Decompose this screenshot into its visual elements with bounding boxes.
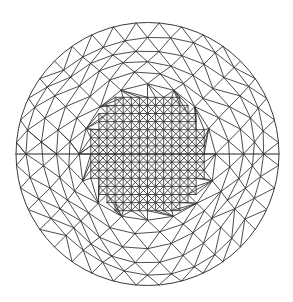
radial-edge: [41, 130, 58, 142]
radial-edge: [30, 166, 43, 178]
radial-edge: [91, 237, 100, 244]
radial-edge: [148, 262, 160, 275]
radial-edge: [159, 23, 171, 38]
radial-edge: [203, 89, 213, 99]
radial-edge: [182, 43, 194, 56]
radial-edge: [35, 107, 45, 118]
radial-edge: [148, 52, 160, 62]
radial-edge: [182, 56, 193, 76]
radial-edge: [183, 255, 194, 266]
radial-edge: [125, 41, 136, 51]
radial-edge: [159, 38, 171, 52]
radial-edge: [103, 47, 113, 55]
ring-edge: [83, 250, 102, 262]
radial-edge: [239, 178, 246, 188]
radial-edge: [240, 118, 250, 129]
radial-edge: [41, 142, 56, 154]
radial-edge: [148, 37, 160, 51]
radial-edge: [250, 108, 258, 118]
ring-edge: [123, 62, 147, 63]
radial-edge: [28, 98, 34, 107]
radial-edge: [123, 234, 135, 247]
radial-edge: [69, 154, 79, 166]
radial-edge: [171, 274, 181, 281]
radial-edge: [71, 57, 83, 77]
ring-edge: [74, 228, 91, 244]
radial-edge: [51, 209, 60, 219]
ring-edge: [263, 131, 264, 154]
ring-edge: [215, 238, 232, 254]
ring-edge: [204, 64, 224, 77]
radial-edge: [194, 35, 203, 43]
ring-edge: [83, 181, 99, 203]
radial-edge: [204, 211, 211, 218]
radial-edge: [148, 275, 159, 285]
radial-edge: [90, 96, 100, 106]
radial-edge: [221, 191, 227, 200]
radial-edge: [244, 154, 253, 166]
radial-edge: [195, 98, 203, 106]
radial-edge: [55, 236, 66, 247]
radial-edge: [254, 198, 266, 209]
radial-edge: [81, 213, 89, 221]
radial-edge: [136, 23, 147, 37]
mesh-figure: [0, 0, 293, 302]
radial-edge: [113, 27, 125, 41]
ring-edge: [148, 274, 172, 275]
ring-edge: [254, 177, 260, 199]
transition-edge: [188, 107, 195, 114]
radial-edge: [160, 262, 172, 274]
radial-edge: [26, 142, 41, 154]
radial-edge: [55, 96, 66, 107]
radial-edge: [148, 74, 161, 84]
radial-edge: [234, 61, 240, 67]
radial-edge: [171, 243, 183, 255]
radial-edge: [148, 220, 160, 232]
radial-edge: [219, 107, 230, 118]
radial-edge: [110, 216, 122, 227]
radial-edge: [173, 216, 183, 224]
radial-edge: [40, 218, 51, 229]
transition-edge: [86, 129, 99, 130]
radial-edge: [193, 233, 204, 243]
radial-edge: [124, 263, 135, 271]
radial-edge: [135, 62, 148, 72]
radial-edge: [209, 118, 219, 129]
radial-edge: [136, 275, 147, 285]
radial-edge: [216, 154, 230, 167]
radial-edge: [113, 271, 124, 281]
radial-edge: [135, 220, 148, 233]
radial-edge: [17, 143, 26, 154]
radial-edge: [244, 142, 255, 154]
radial-edge: [245, 219, 255, 229]
radial-edge: [252, 166, 260, 177]
radial-edge: [103, 256, 112, 262]
radial-edge: [230, 167, 239, 178]
radial-edge: [215, 227, 221, 254]
radial-edge: [135, 72, 148, 84]
transition-edge: [188, 195, 197, 204]
radial-edge: [216, 141, 229, 154]
radial-edge: [261, 177, 275, 189]
ring-edge: [125, 37, 148, 40]
transition-edge: [98, 195, 107, 204]
radial-edge: [17, 154, 26, 165]
ring-edge: [30, 177, 39, 199]
radial-edge: [254, 131, 263, 142]
radial-edge: [40, 79, 47, 87]
radial-edge: [204, 64, 213, 88]
radial-edge: [136, 51, 148, 61]
radial-edge: [135, 234, 148, 249]
radial-edge: [230, 96, 241, 107]
ring-edge: [81, 221, 100, 237]
radial-edge: [171, 56, 182, 66]
ring-edge: [79, 154, 82, 181]
radial-edge: [75, 181, 83, 191]
radial-edge: [213, 78, 224, 89]
ring-edge: [41, 118, 45, 142]
ring-edge: [57, 154, 60, 178]
radial-edge: [47, 77, 70, 87]
radial-edge: [83, 244, 91, 250]
radial-edge: [60, 200, 67, 209]
radial-edge: [50, 178, 60, 189]
